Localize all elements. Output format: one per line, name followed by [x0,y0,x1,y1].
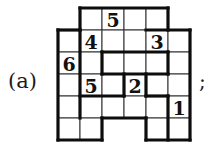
puzzle-cell[interactable] [124,96,146,118]
puzzle-cell[interactable] [146,96,168,118]
cell-digit: 3 [150,31,163,53]
puzzle-cell[interactable] [146,8,168,30]
puzzle-cell[interactable] [102,96,124,118]
cell-digit: 5 [106,9,119,31]
puzzle-cell[interactable] [58,96,80,118]
puzzle-cell[interactable] [80,118,102,140]
puzzle-cell[interactable] [168,74,190,96]
cell-digit: 6 [62,53,75,75]
puzzle-cell[interactable] [124,8,146,30]
cell-digit: 2 [128,75,141,97]
puzzle-cell[interactable] [58,74,80,96]
figure-terminator: ; [199,71,206,91]
puzzle-cell[interactable] [124,30,146,52]
puzzle-figure: (a) ; 5436521 [0,0,215,168]
puzzle-cell[interactable] [168,30,190,52]
cell-digit: 4 [84,31,97,53]
puzzle-cell[interactable] [146,74,168,96]
puzzle-cell[interactable] [124,52,146,74]
puzzle-cell[interactable] [168,52,190,74]
puzzle-cell[interactable] [102,30,124,52]
puzzle-cell[interactable] [102,74,124,96]
puzzle-cell[interactable] [168,118,190,140]
puzzle-cell[interactable] [146,52,168,74]
figure-label: (a) [8,71,37,92]
puzzle-cell[interactable] [80,96,102,118]
puzzle-cell[interactable] [80,52,102,74]
cell-digit: 5 [84,75,97,97]
cell-digit: 1 [172,97,185,119]
puzzle-cell[interactable] [146,118,168,140]
puzzle-cell[interactable] [58,30,80,52]
puzzle-cell[interactable] [80,8,102,30]
puzzle-cell[interactable] [102,52,124,74]
puzzle-cell[interactable] [58,118,80,140]
